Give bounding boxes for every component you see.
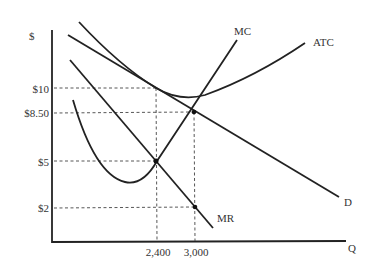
y-axis-label: $ — [29, 30, 35, 42]
guide-price-2 — [54, 207, 194, 208]
x-axis — [52, 241, 346, 242]
guide-lines — [54, 88, 195, 241]
demand-label: D — [344, 196, 352, 208]
y-tick-8-50: $8.50 — [24, 107, 49, 119]
x-tick-3000: 3,000 — [184, 246, 209, 258]
x-axis-label: Q — [348, 242, 356, 254]
x-tick-2400: 2,400 — [146, 246, 171, 258]
mc-label: MC — [234, 25, 251, 37]
atc-curve — [79, 22, 305, 97]
y-tick-5: $5 — [38, 156, 50, 168]
mr-curve — [70, 60, 213, 228]
point-mc-demand — [192, 110, 197, 115]
atc-label: ATC — [313, 36, 334, 48]
guide-q-3000 — [194, 112, 195, 241]
guide-price-8-50 — [54, 112, 194, 113]
point-mr-mc — [154, 159, 159, 164]
y-tick-10: $10 — [33, 83, 50, 95]
point-mr-3000 — [193, 205, 198, 210]
mr-label: MR — [217, 212, 235, 224]
cost-revenue-diagram: $ Q $10 $8.50 $5 $2 2,400 3,000 MC ATC D… — [0, 0, 372, 270]
guide-q-2400 — [156, 88, 157, 241]
y-tick-2: $2 — [38, 202, 49, 214]
